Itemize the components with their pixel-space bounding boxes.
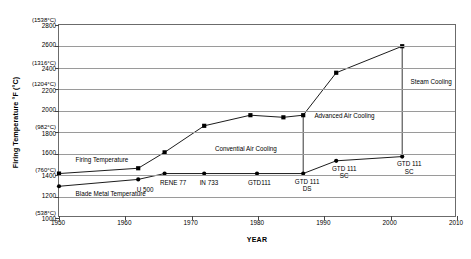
y-axis-tick-label: (982°C)1800 bbox=[35, 125, 56, 138]
gridline bbox=[59, 89, 455, 90]
firing-temperature-label: Firing Temperature bbox=[76, 156, 129, 163]
y-axis-tick-mark bbox=[55, 175, 59, 176]
y-axis-tick-mark bbox=[55, 154, 59, 155]
data-point-marker-circle bbox=[136, 177, 140, 181]
alloy-rene77-label: RENE 77 bbox=[160, 179, 186, 186]
x-axis-tick-label: 2000 bbox=[383, 219, 397, 226]
y-axis-tick-label: 2000 bbox=[42, 106, 56, 113]
data-point-marker-square bbox=[334, 71, 338, 75]
gridline bbox=[59, 111, 455, 112]
y-axis-tick-mark bbox=[55, 46, 59, 47]
alloy-gtd111-sc-1-label: GTD 111 SC bbox=[332, 165, 357, 179]
x-axis-tick-label: 1980 bbox=[250, 219, 264, 226]
series-layer bbox=[59, 25, 455, 216]
y-axis-tick-label-fahrenheit: 1600 bbox=[42, 149, 56, 156]
data-point-marker-square bbox=[301, 113, 305, 117]
y-axis-tick-label: 2600 bbox=[42, 42, 56, 49]
y-axis-tick-mark bbox=[55, 132, 59, 133]
plot-area: Firing TemperatureBlade Metal Temperatur… bbox=[58, 24, 456, 217]
y-axis-tick-labels: (538°C)10001200(760°C)14001600(982°C)180… bbox=[0, 24, 56, 217]
x-axis-tick-label: 2010 bbox=[449, 219, 463, 226]
y-axis-tick-mark bbox=[55, 89, 59, 90]
x-axis-tick-label: 1990 bbox=[316, 219, 330, 226]
y-axis-tick-label-fahrenheit: 2400 bbox=[32, 67, 56, 74]
advanced-air-cooling-label: Advanced Air Cooling bbox=[314, 112, 374, 119]
convential-air-cooling-label: Convential Air Cooling bbox=[215, 145, 277, 152]
y-axis-tick-label-fahrenheit: 1400 bbox=[35, 174, 56, 181]
y-axis-tick-label-fahrenheit: 1800 bbox=[35, 131, 56, 138]
alloy-gtd111-ds-label: GTD 111 DS bbox=[295, 178, 320, 192]
y-axis-tick-label-fahrenheit: 1200 bbox=[42, 192, 56, 199]
y-axis-tick-label-fahrenheit: 2200 bbox=[32, 88, 56, 95]
x-axis-tick-label: 1970 bbox=[184, 219, 198, 226]
data-point-marker-square bbox=[248, 113, 252, 117]
steam-cooling-label: Steam Cooling bbox=[411, 78, 452, 85]
x-axis-tick-labels: 1950196019701980199020002010 bbox=[58, 219, 456, 231]
alloy-u500-label: U 500 bbox=[137, 186, 154, 193]
data-point-marker-circle bbox=[334, 159, 338, 163]
y-axis-tick-mark bbox=[55, 25, 59, 26]
y-axis-tick-label: 1600 bbox=[42, 149, 56, 156]
data-point-marker-square bbox=[136, 166, 140, 170]
data-point-marker-square bbox=[281, 115, 285, 119]
alloy-gtd111-label: GTD111 bbox=[248, 179, 271, 186]
y-axis-tick-mark bbox=[55, 111, 59, 112]
gridline bbox=[59, 132, 455, 133]
y-axis-tick-label: (760°C)1400 bbox=[35, 168, 56, 181]
y-axis-tick-mark bbox=[55, 68, 59, 69]
gridline bbox=[59, 175, 455, 176]
x-axis-tick-label: 1950 bbox=[51, 219, 65, 226]
y-axis-tick-label-fahrenheit: 2600 bbox=[42, 42, 56, 49]
y-axis-tick-label: (1316°C)2400 bbox=[32, 60, 56, 73]
y-axis-tick-label: 1200 bbox=[42, 192, 56, 199]
x-axis-title: YEAR bbox=[58, 236, 456, 243]
x-axis-tick-label: 1960 bbox=[117, 219, 131, 226]
y-axis-tick-label: (1538°C)2800 bbox=[32, 17, 56, 30]
data-point-marker-circle bbox=[400, 154, 404, 158]
y-axis-tick-mark bbox=[55, 197, 59, 198]
blade-metal-temperature-label: Blade Metal Temperature bbox=[76, 190, 146, 197]
y-axis-tick-label-fahrenheit: 2000 bbox=[42, 106, 56, 113]
gridline bbox=[59, 68, 455, 69]
firing-temperature-chart: Firing Temperature °F (°C) (538°C)100012… bbox=[0, 0, 471, 259]
data-point-marker-circle bbox=[57, 184, 61, 188]
gridline bbox=[59, 154, 455, 155]
data-point-marker-square bbox=[202, 124, 206, 128]
y-axis-tick-label-fahrenheit: 2800 bbox=[32, 24, 56, 31]
alloy-in733-label: IN 733 bbox=[200, 179, 219, 186]
y-axis-tick-label: (1204°C)2200 bbox=[32, 82, 56, 95]
alloy-gtd111-sc-2-label: GTD 111 SC bbox=[397, 160, 422, 174]
gridline bbox=[59, 46, 455, 47]
